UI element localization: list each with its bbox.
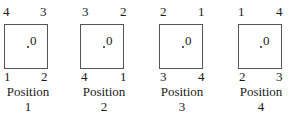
position-caption: Position [80, 85, 128, 99]
square [159, 24, 203, 69]
origin-dot [260, 46, 262, 48]
origin-label: 0 [30, 34, 37, 47]
position-number: 2 [80, 100, 128, 114]
corner-top-right-label: 4 [276, 5, 283, 18]
corner-bottom-right-label: 2 [41, 70, 48, 83]
origin-label: 0 [263, 34, 270, 47]
origin-dot [103, 46, 105, 48]
position-4-panel: 1 4 0 2 3 Position 4 [238, 0, 289, 118]
corner-top-right-label: 1 [198, 5, 205, 18]
origin-label: 0 [106, 34, 113, 47]
position-1-panel: 4 3 0 1 2 Position 1 [3, 0, 63, 118]
position-3-panel: 2 1 0 3 4 Position 3 [159, 0, 219, 118]
corner-bottom-left-label: 2 [239, 70, 246, 83]
corner-bottom-left-label: 3 [160, 70, 167, 83]
corner-top-right-label: 2 [120, 5, 127, 18]
corner-top-left-label: 2 [160, 5, 167, 18]
position-number: 3 [159, 100, 205, 114]
position-number: 4 [238, 100, 284, 114]
position-caption: Position [3, 85, 53, 99]
square [4, 24, 48, 69]
corner-top-left-label: 1 [238, 5, 245, 18]
origin-dot [27, 46, 29, 48]
corner-bottom-right-label: 4 [198, 70, 205, 83]
position-number: 1 [3, 100, 53, 114]
corner-top-left-label: 3 [82, 5, 89, 18]
corner-bottom-right-label: 3 [276, 70, 283, 83]
origin-dot [182, 46, 184, 48]
position-2-panel: 3 2 0 4 1 Position 2 [80, 0, 140, 118]
position-caption: Position [238, 85, 284, 99]
corner-bottom-left-label: 1 [4, 70, 11, 83]
square [80, 24, 124, 69]
corner-top-left-label: 4 [3, 5, 10, 18]
origin-label: 0 [185, 34, 192, 47]
corner-top-right-label: 3 [40, 5, 47, 18]
corner-bottom-right-label: 1 [120, 70, 127, 83]
corner-bottom-left-label: 4 [81, 70, 88, 83]
position-caption: Position [159, 85, 205, 99]
